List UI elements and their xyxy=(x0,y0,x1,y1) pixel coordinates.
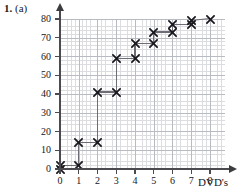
series-segment xyxy=(98,91,117,92)
y-axis-tick-label: 40 xyxy=(0,89,51,99)
series-segment xyxy=(173,24,192,25)
y-axis-tick-label: 20 xyxy=(0,127,51,137)
x-axis-arrow-icon xyxy=(229,165,237,173)
y-axis-tick xyxy=(55,18,60,19)
y-axis-line xyxy=(59,10,61,171)
series-segment xyxy=(172,25,173,33)
question-part: (a) xyxy=(15,2,27,14)
x-axis-tick-label: 4 xyxy=(128,176,142,186)
x-axis-tick-label: 5 xyxy=(147,176,161,186)
x-axis-tick xyxy=(153,169,154,174)
x-axis-tick xyxy=(59,169,60,174)
series-segment xyxy=(116,58,135,59)
x-axis-tick-label: 3 xyxy=(109,176,123,186)
series-segment xyxy=(134,43,135,58)
x-axis-tick xyxy=(209,169,210,174)
x-axis-tick xyxy=(172,169,173,174)
major-gridlines xyxy=(60,19,225,169)
y-axis-tick xyxy=(55,112,60,113)
x-axis-tick xyxy=(78,169,79,174)
question-label: 1. (a) xyxy=(4,2,27,14)
x-axis-tick-label: 0 xyxy=(53,176,67,186)
y-axis-tick-label: 80 xyxy=(0,14,51,24)
series-segment xyxy=(153,32,154,43)
x-axis-tick-label: 2 xyxy=(91,176,105,186)
plot-area xyxy=(60,19,225,169)
y-axis-tick-label: 50 xyxy=(0,70,51,80)
y-axis-tick-label: 0 xyxy=(0,164,51,174)
x-axis-tick xyxy=(191,169,192,174)
x-axis-tick xyxy=(116,169,117,174)
y-axis-tick-label: 30 xyxy=(0,108,51,118)
y-axis-tick xyxy=(55,131,60,132)
x-axis-line xyxy=(59,168,232,170)
chart-figure: 1. (a) 01020304050607080 012345678 DVD's xyxy=(0,0,250,192)
x-axis-tick xyxy=(97,169,98,174)
x-axis-title: DVD's xyxy=(198,176,228,188)
y-axis-tick-label: 70 xyxy=(0,33,51,43)
y-axis-tick xyxy=(55,37,60,38)
y-axis-tick-label: 60 xyxy=(0,52,51,62)
grid xyxy=(60,19,225,169)
y-axis-tick xyxy=(55,75,60,76)
x-axis-tick-label: 6 xyxy=(166,176,180,186)
series-segment xyxy=(116,58,117,92)
series-segment xyxy=(154,31,173,32)
series-segment xyxy=(78,143,79,166)
series-segment xyxy=(60,165,79,166)
series-segment xyxy=(97,92,98,143)
x-axis-tick-label: 1 xyxy=(72,176,86,186)
series-segment xyxy=(79,142,98,143)
question-number: 1. xyxy=(4,2,12,14)
series-segment xyxy=(135,43,154,44)
y-axis-arrow-icon xyxy=(56,3,64,11)
y-axis-tick xyxy=(55,93,60,94)
y-axis-tick xyxy=(55,150,60,151)
x-axis-tick xyxy=(134,169,135,174)
x-axis-tick-label: 7 xyxy=(184,176,198,186)
y-axis-tick-label: 10 xyxy=(0,145,51,155)
series-segment xyxy=(191,21,192,25)
y-axis-tick xyxy=(55,56,60,57)
